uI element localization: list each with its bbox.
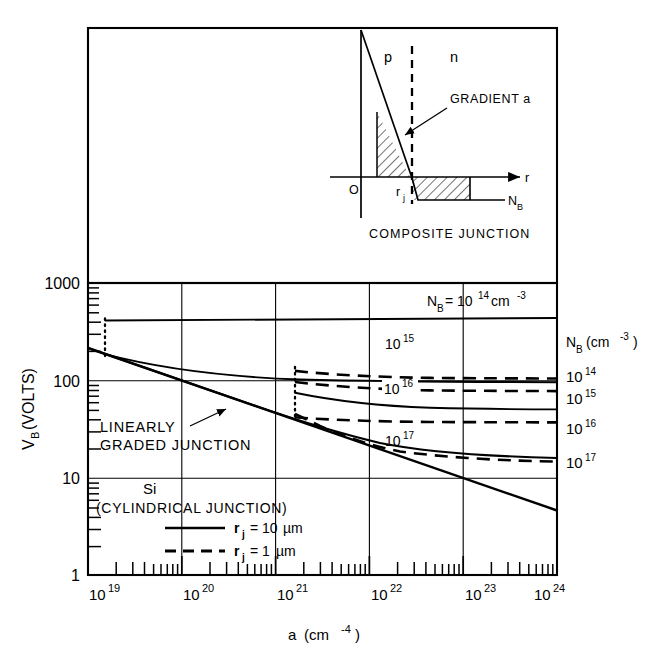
legend-item-1-unit: µm	[276, 543, 296, 559]
y-axis-title-sub: B	[29, 432, 41, 439]
annotation-junction-type: (CYLINDRICAL JUNCTION)	[96, 500, 287, 516]
annotation-linearly-graded-arrow	[190, 409, 226, 426]
ytick-100: 100	[53, 373, 80, 390]
xtick-1e22-exp: 22	[390, 582, 402, 594]
right-header-sub: B	[576, 344, 583, 355]
inset-title: COMPOSITE JUNCTION	[369, 227, 530, 241]
legend-item-1-sub: j	[241, 552, 245, 563]
right-header-close: )	[633, 334, 638, 350]
right-header-exp: -3	[620, 331, 629, 342]
right-label-2-mantissa: 10	[566, 420, 583, 437]
inset-panel-frame	[88, 28, 557, 283]
x-axis-title-exp: -4	[341, 623, 351, 635]
annotation-linearly-graded: LINEARLY GRADED JUNCTION	[100, 409, 251, 453]
ytick-1: 1	[71, 567, 80, 584]
annotation-inline-1e15-mantissa: 10	[385, 336, 401, 352]
annotation-linearly-graded-line2: GRADED JUNCTION	[100, 437, 251, 453]
annotation-inline-1e17-exp: 17	[403, 430, 415, 441]
right-label-2-exp: 16	[585, 418, 597, 429]
xtick-1e20-exp: 20	[202, 582, 214, 594]
legend-item-1-eq: = 1	[250, 543, 270, 559]
legend-item-0-eq: = 10	[250, 520, 278, 536]
y-axis-title: V B (VOLTS)	[20, 368, 41, 450]
annotation-inline-1e15-exp: 15	[403, 333, 415, 344]
xtick-1e24-mantissa: 10	[534, 586, 551, 603]
annotation-nb-top-unit-exp: -3	[517, 290, 526, 301]
annotation-nb-top: N B = 10 14 cm -3	[427, 290, 526, 314]
ytick-1000: 1000	[44, 275, 80, 292]
curve-nb-1e14-dashed	[295, 371, 557, 379]
inset-label-nb-sub: B	[517, 202, 523, 212]
annotation-nb-top-n: N	[427, 293, 437, 309]
xtick-1e21-mantissa: 10	[277, 586, 294, 603]
annotation-inline-1e15: 10 15	[385, 333, 415, 352]
annotation-inline-1e16: 10 16	[382, 378, 418, 397]
annotation-nb-top-unit: cm	[491, 293, 510, 309]
xtick-1e20-mantissa: 10	[183, 586, 200, 603]
right-header-unit: (cm	[586, 334, 609, 350]
annotation-inline-1e17-mantissa: 10	[385, 433, 401, 449]
x-axis-title-close: )	[355, 626, 360, 643]
inset-label-gradient: GRADIENT a	[450, 92, 531, 106]
annotation-material: Si	[143, 480, 156, 497]
right-label-1-exp: 15	[585, 388, 597, 399]
inset-label-rj-sub: j	[402, 193, 405, 203]
xtick-1e24-exp: 24	[553, 582, 565, 594]
right-label-3-exp: 17	[585, 452, 597, 463]
x-axis-major-ticks	[182, 556, 463, 575]
legend-item-1-r: r	[234, 543, 240, 559]
annotation-linearly-graded-line1: LINEARLY	[100, 419, 175, 435]
inset-label-p: p	[384, 49, 392, 65]
annotation-nb-top-sub: B	[437, 303, 444, 314]
right-label-1-mantissa: 10	[566, 390, 583, 407]
y-axis-title-unit: (VOLTS)	[20, 368, 37, 430]
y-axis-labels: 1000 100 10 1	[44, 275, 80, 584]
right-label-3-mantissa: 10	[566, 454, 583, 471]
annotation-material-label: Si	[143, 480, 156, 497]
legend-item-0-r: r	[234, 520, 240, 536]
annotation-nb-top-exp: 14	[478, 290, 490, 301]
dotted-markers	[105, 319, 295, 421]
x-axis-labels: 10 19 10 20 10 21 10 22 10 23 10 24	[89, 582, 565, 603]
inset-label-n: n	[450, 49, 458, 65]
figure-container: p n GRADIENT a O r j r N B COMPOSITE JUN…	[0, 0, 665, 663]
inset-label-r-axis: r	[525, 171, 529, 185]
xtick-1e19-mantissa: 10	[89, 586, 106, 603]
annotation-nb-top-eq: = 10	[445, 293, 473, 309]
legend-item-0-sub: j	[241, 529, 245, 540]
y-axis-title-v: V	[20, 439, 37, 450]
inset-label-rj: r	[396, 185, 400, 199]
annotation-inline-1e16-exp: 16	[402, 378, 414, 389]
inset-label-nb: N	[508, 194, 517, 208]
legend-item-0-unit: µm	[283, 520, 303, 536]
legend: r j = 10 µm r j = 1 µm	[165, 520, 303, 563]
xtick-1e19-exp: 19	[108, 582, 120, 594]
x-axis-title-unit: (cm	[304, 626, 329, 643]
annotation-inline-1e16-mantissa: 10	[384, 381, 400, 397]
xtick-1e22-mantissa: 10	[371, 586, 388, 603]
curve-nb-1e14-solid	[105, 318, 557, 321]
inset-diagram: p n GRADIENT a O r j r N B COMPOSITE JUN…	[330, 30, 531, 241]
xtick-1e21-exp: 21	[296, 582, 308, 594]
right-header-n: N	[566, 334, 576, 350]
curve-nb-1e16-dashed	[295, 417, 557, 422]
annotation-inline-1e17: 10 17	[385, 430, 415, 449]
ytick-10: 10	[62, 470, 80, 487]
curve-nb-1e15-dashed	[295, 382, 557, 391]
figure-svg: p n GRADIENT a O r j r N B COMPOSITE JUN…	[0, 0, 665, 663]
inset-label-origin: O	[349, 183, 359, 197]
xtick-1e23-mantissa: 10	[465, 586, 482, 603]
right-side-labels: N B (cm -3 ) 10 14 10 15 10 16 10 17	[566, 331, 638, 471]
x-axis-title: a (cm -4 )	[288, 623, 360, 643]
curve-nb-1e16-solid	[295, 393, 557, 410]
inset-hatch-rect	[412, 177, 470, 200]
right-label-0-exp: 14	[585, 366, 597, 377]
x-axis-title-a: a	[288, 626, 297, 643]
right-label-0-mantissa: 10	[566, 368, 583, 385]
xtick-1e23-exp: 23	[484, 582, 496, 594]
